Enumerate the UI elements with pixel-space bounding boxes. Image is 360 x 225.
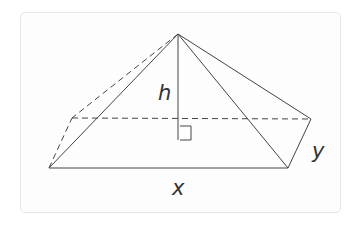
edge-base-right	[288, 119, 311, 168]
pyramid-diagram: h x y	[0, 0, 360, 225]
label-base-length: x	[171, 176, 185, 200]
right-angle-marker	[180, 126, 191, 140]
hidden-edge-apex-back-left	[72, 34, 178, 118]
label-base-width: y	[311, 139, 325, 163]
edge-apex-back-right	[178, 34, 311, 119]
hidden-edge-back	[72, 118, 311, 119]
edge-apex-front-right	[178, 34, 288, 168]
label-height: h	[158, 81, 171, 105]
hidden-edge-front-left-back-left	[49, 118, 72, 168]
